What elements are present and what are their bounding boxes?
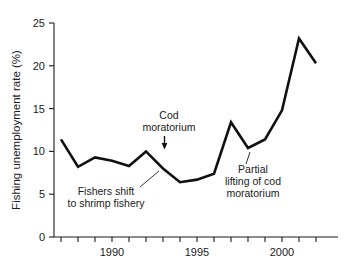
- x-axis-tick-labels: 1990 1995 2000: [100, 246, 294, 258]
- annotation-partial-lifting-line3: moratorium: [226, 187, 279, 199]
- annotation-partial-lifting-line2: lifting of cod: [225, 175, 281, 187]
- y-tick-label-15: 15: [33, 103, 45, 115]
- annotation-fishers-shift-line2: to shrimp fishery: [67, 197, 145, 209]
- annotation-partial-lifting-line1: Partial: [238, 163, 268, 175]
- annotation-cod-moratorium: Cod moratorium: [142, 109, 195, 150]
- data-series-line: [61, 38, 316, 182]
- y-axis-tick-labels: 0 5 10 15 20 25: [33, 17, 45, 243]
- down-arrow-icon-head: [162, 143, 168, 150]
- y-tick-label-5: 5: [39, 188, 45, 200]
- x-tick-label-2000: 2000: [270, 246, 294, 258]
- y-axis-title: Fishing unemployment rate (%): [10, 50, 22, 210]
- y-axis-ticks: [49, 23, 54, 237]
- annotation-cod-moratorium-line1: Cod: [159, 109, 178, 121]
- x-tick-label-1995: 1995: [185, 246, 209, 258]
- x-axis-ticks: [61, 237, 316, 242]
- chart-container: Fishing unemployment rate (%) 0 5 10 15 …: [0, 0, 346, 265]
- annotation-partial-lifting: Partial lifting of cod moratorium: [225, 152, 281, 199]
- y-tick-label-0: 0: [39, 231, 45, 243]
- annotation-fishers-shift-leader: [140, 171, 159, 187]
- y-tick-label-20: 20: [33, 60, 45, 72]
- annotation-cod-moratorium-line2: moratorium: [142, 121, 195, 133]
- line-chart: Fishing unemployment rate (%) 0 5 10 15 …: [0, 0, 346, 265]
- y-tick-label-25: 25: [33, 17, 45, 29]
- y-tick-label-10: 10: [33, 145, 45, 157]
- x-tick-label-1990: 1990: [100, 246, 124, 258]
- annotation-fishers-shift-line1: Fishers shift: [78, 185, 135, 197]
- annotation-fishers-shift: Fishers shift to shrimp fishery: [67, 171, 159, 209]
